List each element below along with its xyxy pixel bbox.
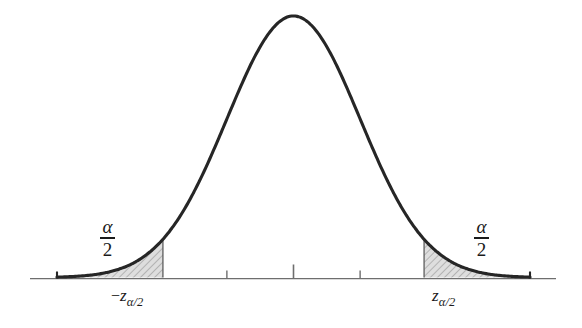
left-tail-area-label: α 2	[100, 217, 115, 259]
z-symbol: z	[120, 286, 127, 305]
right-tail-area-label: α 2	[474, 217, 489, 259]
fraction-denominator: 2	[101, 239, 115, 259]
right-critical-value-label: zα/2	[432, 287, 456, 308]
bell-curve-plot	[0, 0, 582, 328]
z-subscript: α/2	[439, 295, 456, 309]
fraction-numerator: α	[475, 217, 489, 237]
minus-sign: −	[111, 287, 120, 304]
z-subscript: α/2	[127, 295, 144, 309]
fraction-alpha-over-two: α 2	[474, 217, 489, 259]
fraction-numerator: α	[101, 217, 115, 237]
left-critical-value-label: −zα/2	[111, 287, 144, 308]
bell-curve-line	[57, 16, 530, 277]
fraction-alpha-over-two: α 2	[100, 217, 115, 259]
fraction-denominator: 2	[475, 239, 489, 259]
normal-distribution-figure: α 2 α 2 −zα/2 zα/2	[0, 0, 582, 328]
z-symbol: z	[432, 286, 439, 305]
